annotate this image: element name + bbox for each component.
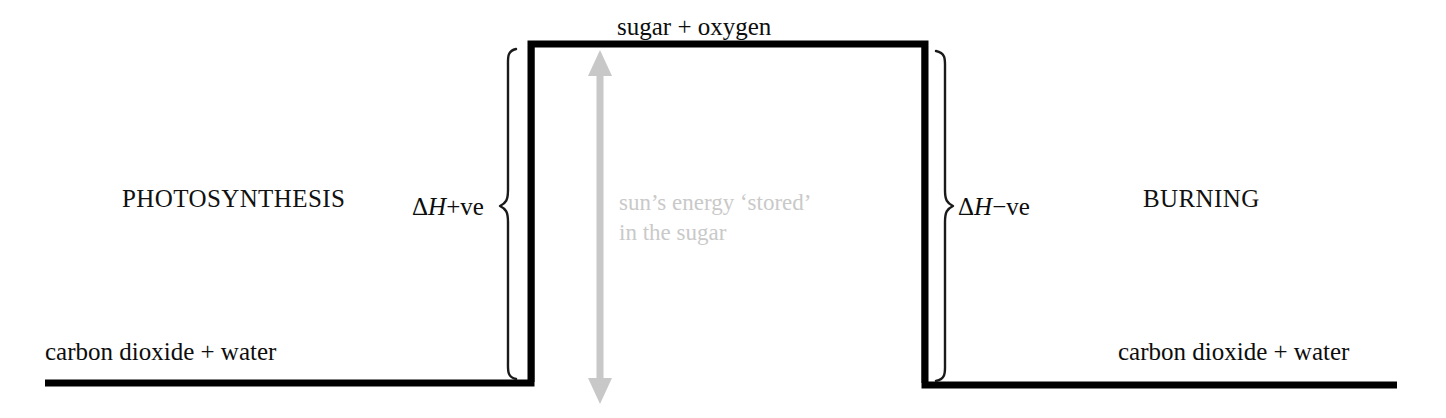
state-label-carbon-dioxide-water-left: carbon dioxide + water <box>45 337 276 367</box>
energy-arrow-head-up <box>588 50 612 76</box>
enthalpy-label-negative: ΔH−ve <box>958 192 1030 222</box>
energy-arrow-head-down <box>588 378 612 404</box>
double-headed-energy-arrow <box>588 50 612 404</box>
enthalpy-sign-right: −ve <box>992 193 1030 220</box>
delta-symbol-left: Δ <box>412 193 428 220</box>
annotation-line-2: in the sugar <box>619 218 811 248</box>
enthalpy-label-positive: ΔH+ve <box>412 192 484 222</box>
enthalpy-sign-left: +ve <box>446 193 484 220</box>
left-enthalpy-brace-icon <box>500 49 516 379</box>
enthalpy-symbol-right: H <box>974 193 992 220</box>
annotation-line-1: sun’s energy ‘stored’ <box>619 188 811 218</box>
state-label-carbon-dioxide-water-right: carbon dioxide + water <box>1118 337 1349 367</box>
state-label-sugar-oxygen: sugar + oxygen <box>617 12 771 42</box>
process-label-photosynthesis: PHOTOSYNTHESIS <box>122 184 345 214</box>
process-label-burning: BURNING <box>1143 184 1260 214</box>
annotation-stored-energy: sun’s energy ‘stored’ in the sugar <box>619 188 811 249</box>
delta-symbol-right: Δ <box>958 193 974 220</box>
right-enthalpy-brace-icon <box>936 51 953 381</box>
energy-level-diagram: PHOTOSYNTHESIS BURNING sugar + oxygen ca… <box>0 0 1446 418</box>
enthalpy-symbol-left: H <box>428 193 446 220</box>
